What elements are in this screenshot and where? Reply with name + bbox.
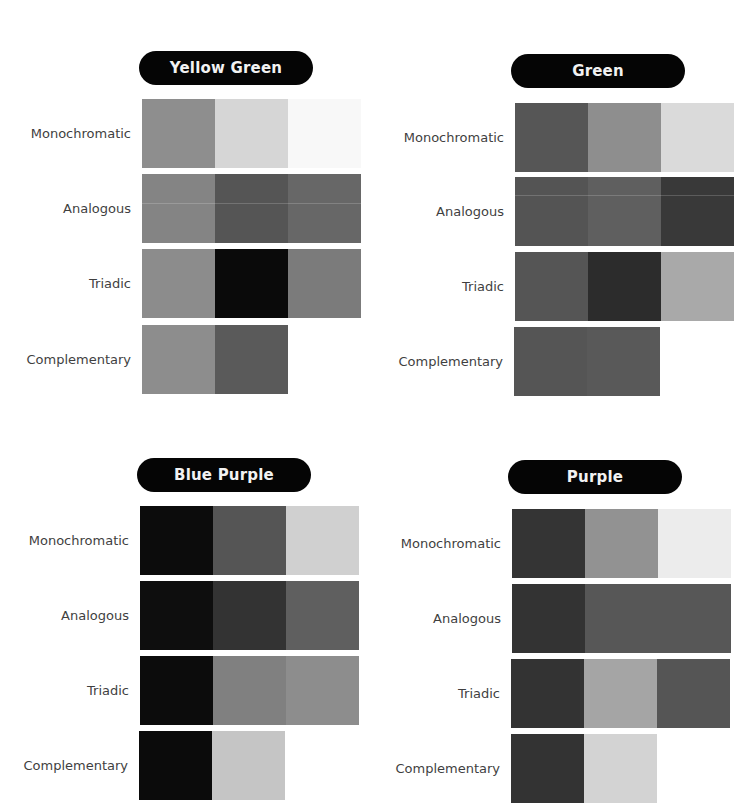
swatch-group	[515, 103, 734, 172]
scheme-label: Analogous	[61, 581, 129, 650]
color-swatch	[140, 581, 213, 650]
color-swatch	[514, 327, 587, 396]
color-swatch	[512, 509, 585, 578]
color-swatch	[213, 506, 286, 575]
scheme-label: Monochromatic	[401, 509, 501, 578]
scheme-label: Analogous	[436, 177, 504, 246]
color-swatch	[588, 177, 661, 246]
color-swatch	[661, 177, 734, 246]
color-swatch	[515, 252, 588, 321]
swatch-group	[514, 327, 660, 396]
panel-title-pill: Purple	[508, 460, 682, 494]
color-swatch	[215, 249, 288, 318]
color-swatch	[139, 731, 212, 800]
swatch-group	[140, 656, 359, 725]
color-swatch	[584, 659, 657, 728]
scheme-label: Monochromatic	[29, 506, 129, 575]
color-swatch	[215, 325, 288, 394]
color-swatch	[588, 252, 661, 321]
panel-title-pill: Blue Purple	[137, 458, 311, 492]
color-swatch	[140, 506, 213, 575]
scheme-label: Analogous	[433, 584, 501, 653]
color-swatch	[512, 584, 585, 653]
color-swatch	[142, 174, 215, 243]
scheme-label: Complementary	[398, 327, 503, 396]
scheme-label: Monochromatic	[31, 99, 131, 168]
swatch-group	[512, 584, 731, 653]
color-swatch	[511, 659, 584, 728]
color-swatch	[288, 249, 361, 318]
swatch-group	[140, 581, 359, 650]
color-swatch	[286, 506, 359, 575]
color-swatch	[661, 252, 734, 321]
color-swatch	[142, 325, 215, 394]
swatch-group	[511, 659, 730, 728]
color-swatch	[584, 734, 657, 803]
color-swatch	[142, 99, 215, 168]
swatch-group	[511, 734, 657, 803]
color-swatch	[585, 509, 658, 578]
color-swatch	[588, 103, 661, 172]
scheme-label: Triadic	[458, 659, 500, 728]
scheme-label: Triadic	[87, 656, 129, 725]
color-swatch	[140, 656, 213, 725]
color-swatch	[213, 656, 286, 725]
swatch-group	[512, 509, 731, 578]
color-swatch	[288, 174, 361, 243]
swatch-group	[142, 249, 361, 318]
scheme-label: Complementary	[26, 325, 131, 394]
swatch-group	[139, 731, 285, 800]
color-swatch	[286, 656, 359, 725]
panel-title-pill: Yellow Green	[139, 51, 313, 85]
color-swatch	[212, 731, 285, 800]
swatch-group	[142, 99, 361, 168]
color-swatch	[585, 584, 731, 653]
scheme-label: Analogous	[63, 174, 131, 243]
swatch-group	[515, 252, 734, 321]
scan-line-artifact	[515, 195, 734, 196]
swatch-group	[140, 506, 359, 575]
color-swatch	[286, 581, 359, 650]
panel-title-pill: Green	[511, 54, 685, 88]
color-swatch	[511, 734, 584, 803]
color-swatch	[215, 174, 288, 243]
color-swatch	[515, 103, 588, 172]
scan-line-artifact	[142, 203, 362, 204]
color-swatch	[587, 327, 660, 396]
color-swatch	[215, 99, 288, 168]
color-swatch	[142, 249, 215, 318]
color-swatch	[515, 177, 588, 246]
scheme-label: Complementary	[23, 731, 128, 800]
scheme-label: Monochromatic	[404, 103, 504, 172]
color-swatch	[661, 103, 734, 172]
color-swatch	[658, 509, 731, 578]
color-swatch	[288, 99, 361, 168]
scheme-label: Triadic	[462, 252, 504, 321]
color-swatch	[657, 659, 730, 728]
scheme-label: Triadic	[89, 249, 131, 318]
scheme-label: Complementary	[395, 734, 500, 803]
swatch-group	[515, 177, 734, 246]
swatch-group	[142, 325, 288, 394]
color-swatch	[213, 581, 286, 650]
swatch-group	[142, 174, 361, 243]
